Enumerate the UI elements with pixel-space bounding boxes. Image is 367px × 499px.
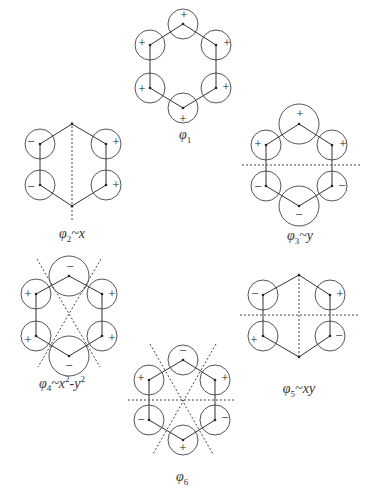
svg-text:−: − xyxy=(338,178,345,193)
svg-text:+: + xyxy=(137,370,144,385)
label-phi5: φ5~xy xyxy=(283,381,315,399)
orbital-diagrams: + + + + + + − + − + + + + − − − − + + + … xyxy=(0,0,367,499)
label-phi2: φ2~x xyxy=(59,226,85,244)
svg-text:+: + xyxy=(108,330,115,345)
svg-text:+: + xyxy=(108,286,115,301)
svg-text:−: − xyxy=(179,343,186,358)
svg-text:−: − xyxy=(221,410,228,425)
svg-text:−: − xyxy=(65,358,72,373)
svg-text:+: + xyxy=(223,35,230,50)
svg-text:+: + xyxy=(24,332,31,347)
svg-text:−: − xyxy=(295,207,302,222)
diagram-phi1 xyxy=(135,9,231,123)
svg-text:+: + xyxy=(179,111,186,126)
svg-text:−: − xyxy=(27,134,34,149)
label-phi6: φ6 xyxy=(176,469,188,487)
svg-text:+: + xyxy=(222,79,229,94)
svg-text:−: − xyxy=(251,286,258,301)
svg-text:+: + xyxy=(138,35,145,50)
label-phi4: φ4~x2-y2 xyxy=(39,374,85,393)
svg-text:+: + xyxy=(339,136,346,151)
svg-text:−: − xyxy=(335,328,342,343)
svg-text:+: + xyxy=(179,440,186,455)
svg-text:−: − xyxy=(66,259,73,274)
svg-text:+: + xyxy=(336,286,343,301)
svg-text:+: + xyxy=(221,370,228,385)
svg-text:+: + xyxy=(112,134,119,149)
svg-text:−: − xyxy=(27,179,34,194)
label-phi3: φ3~y xyxy=(287,228,313,246)
svg-text:−: − xyxy=(137,412,144,427)
svg-text:+: + xyxy=(296,106,303,121)
svg-text:+: + xyxy=(250,332,257,347)
svg-text:+: + xyxy=(138,81,145,96)
svg-text:+: + xyxy=(112,177,119,192)
svg-text:+: + xyxy=(180,7,187,22)
svg-text:+: + xyxy=(24,286,31,301)
svg-text:−: − xyxy=(254,179,261,194)
label-phi1: φ1 xyxy=(179,127,191,145)
svg-text:+: + xyxy=(254,136,261,151)
